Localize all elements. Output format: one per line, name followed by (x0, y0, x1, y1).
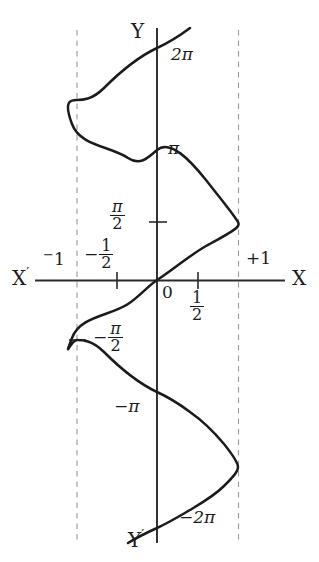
x-label-minus-one-half-numerator: 1 (101, 236, 111, 255)
y-label-minus-pi: −π (114, 398, 139, 415)
x-label-minus-one-value: 1 (54, 249, 65, 269)
x-axis-right-label: X (292, 268, 306, 288)
x-axis-left-letter: X (12, 266, 26, 290)
x-label-minus-one: −1 (43, 248, 65, 268)
y-axis-bottom-prime-mark: ′ (141, 527, 144, 542)
y-axis-bottom-label: Y′ (128, 528, 144, 550)
x-label-minus-one-half: − 1 2 (84, 238, 113, 272)
x-label-plus-one-value: 1 (260, 248, 271, 268)
arcsine-graph-figure: Y 2π π π 2 X′ −1 − 1 2 0 1 2 +1 X (0, 0, 319, 562)
x-axis-left-prime-mark: ′ (26, 265, 29, 280)
x-label-one-half-denominator: 2 (192, 305, 202, 324)
arcsine-curve (68, 28, 239, 543)
x-label-plus-one: +1 (246, 250, 271, 267)
x-label-minus-one-sign: − (43, 247, 54, 262)
x-axis-left-label: X′ (12, 266, 29, 288)
x-label-minus-one-half-denominator: 2 (101, 253, 111, 272)
y-label-pi-over-two-denominator: 2 (112, 214, 122, 233)
y-axis-bottom-letter: Y (128, 528, 141, 552)
y-axis-top-label: Y (131, 21, 144, 41)
y-label-pi-over-two-numerator: π (112, 197, 123, 216)
y-label-minus-pi-over-two-denominator: 2 (110, 336, 120, 355)
y-label-minus-two-pi: −2π (179, 509, 215, 526)
x-label-one-half-numerator: 1 (192, 288, 202, 307)
y-label-pi: π (168, 140, 179, 157)
y-label-minus-pi-over-two: − π 2 (93, 321, 123, 355)
origin-label: 0 (162, 284, 173, 301)
y-label-minus-pi-over-two-numerator: π (110, 319, 121, 338)
x-label-minus-one-half-sign: − (84, 246, 99, 263)
y-label-minus-pi-over-two-sign: − (93, 329, 108, 346)
x-label-one-half: 1 2 (190, 290, 204, 324)
x-label-plus-one-sign: + (246, 248, 260, 268)
y-label-pi-over-two: π 2 (110, 199, 125, 233)
plot-canvas (0, 0, 319, 562)
y-label-two-pi: 2π (171, 46, 193, 63)
